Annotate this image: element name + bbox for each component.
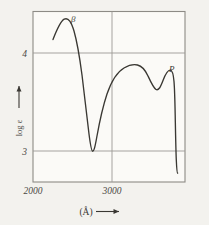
peak-label-p: P	[168, 64, 175, 74]
y-axis-caption: log ε	[14, 119, 24, 136]
plot-frame	[33, 12, 185, 183]
y-tick-label-4: 4	[22, 49, 27, 59]
x-tick-label-2000: 2000	[24, 186, 43, 196]
absorption-spectrum-chart: 4 3 2000 3000 β P (Å) log ε	[0, 0, 209, 225]
x-axis-caption: (Å)	[79, 206, 92, 218]
y-tick-label-3: 3	[21, 147, 27, 157]
x-tick-label-3000: 3000	[102, 186, 122, 196]
spectrum-figure: 4 3 2000 3000 β P (Å) log ε	[0, 0, 209, 225]
peak-label-beta: β	[70, 14, 76, 24]
